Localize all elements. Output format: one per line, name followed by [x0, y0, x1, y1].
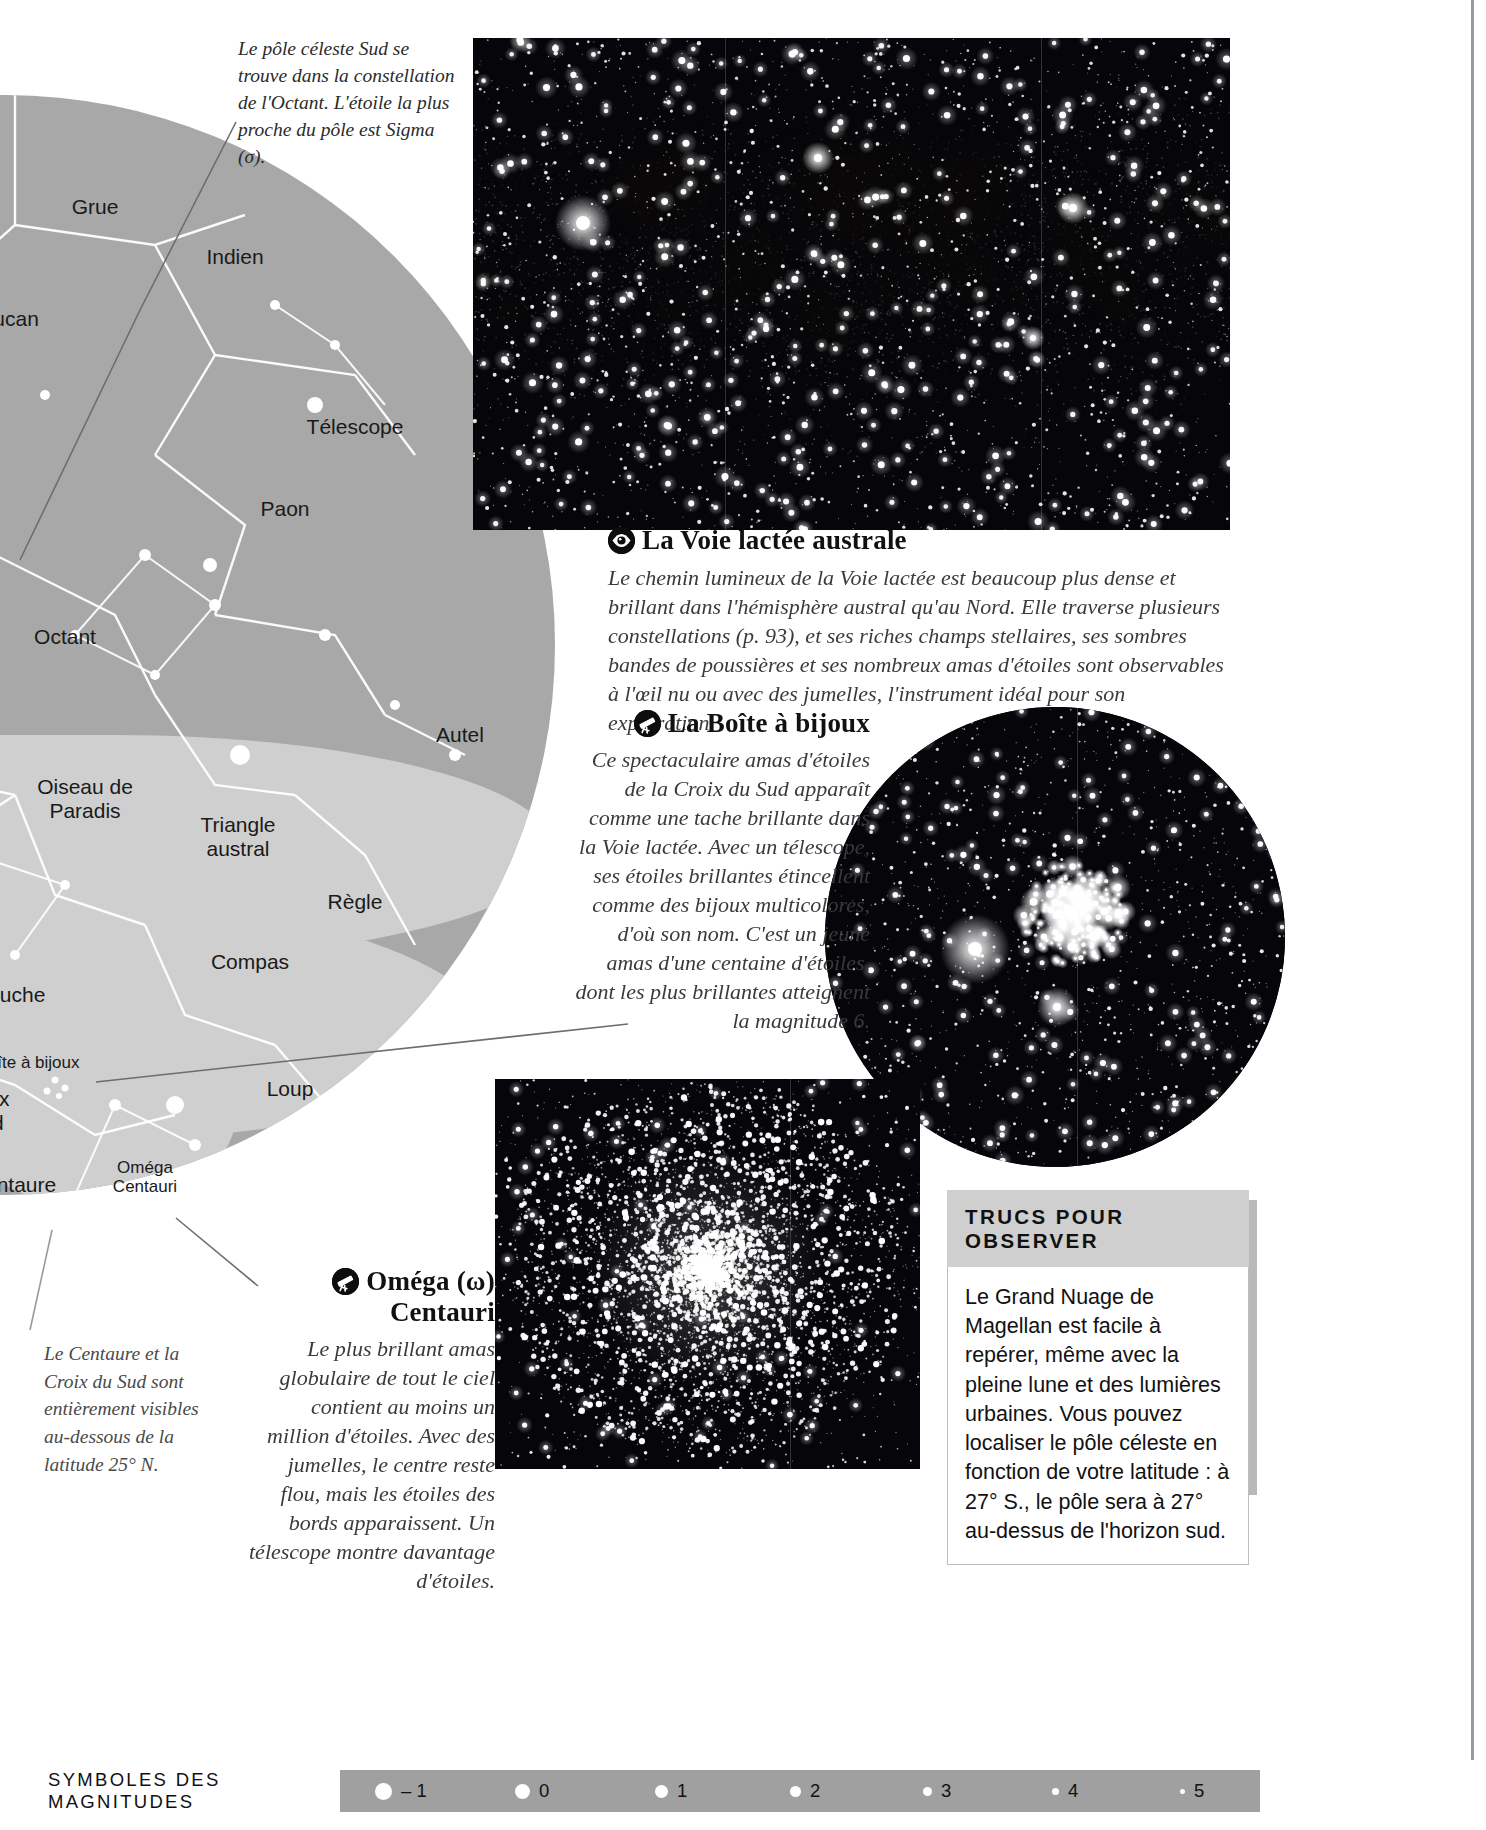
constellation-label: Triangle austral [200, 813, 275, 860]
constellation-label: Compas [211, 950, 289, 974]
constellation-label: Autel [436, 723, 484, 747]
constellation-label: Oméga Centauri [113, 1158, 177, 1196]
milky-way-section: La Voie lactée australe Le chemin lumine… [608, 525, 1233, 737]
constellation-label: Règle [328, 890, 383, 914]
constellation-label: Indien [206, 245, 263, 269]
magnitudes-legend-label: SYMBOLES DES MAGNITUDES [48, 1769, 340, 1813]
magnitude-legend-item: 5 [1180, 1770, 1204, 1812]
magnitude-value: 5 [1194, 1780, 1204, 1802]
constellation-label: Croix Sud [0, 1087, 10, 1134]
constellation-label: Loup [267, 1077, 314, 1101]
jewel-box-title: La Boîte à bijoux [668, 708, 870, 738]
tips-box-heading: TRUCS POUR OBSERVER [965, 1205, 1125, 1252]
magnitude-legend-item: – 1 [375, 1770, 427, 1812]
omega-centauri-photo[interactable] [495, 1079, 920, 1469]
omega-centauri-section: Oméga (ω) Centauri Le plus brillant amas… [245, 1266, 495, 1595]
magnitude-value: – 1 [401, 1780, 427, 1802]
constellation-label: Paon [260, 497, 309, 521]
magnitude-legend-item: 0 [515, 1770, 549, 1812]
tips-box-body: Le Grand Nuage de Magellan est facile à … [947, 1267, 1249, 1565]
jewel-box-title-row: La Boîte à bijoux [570, 708, 870, 739]
magnitude-value: 3 [941, 1780, 951, 1802]
constellation-label: Boîte à bijoux [0, 1053, 80, 1072]
milky-way-photo[interactable] [473, 38, 1230, 530]
constellation-label: Centaure [0, 1173, 56, 1197]
magnitude-value: 0 [539, 1780, 549, 1802]
page-edge-rule [1471, 0, 1474, 1760]
constellation-label: Toucan [0, 307, 39, 331]
tips-box-header: TRUCS POUR OBSERVER [947, 1190, 1249, 1267]
omega-centauri-title: Oméga (ω) Centauri [366, 1266, 495, 1327]
magnitude-value: 2 [810, 1780, 820, 1802]
magnitude-dot [515, 1784, 530, 1799]
magnitude-legend-item: 3 [923, 1770, 951, 1812]
magnitude-dot [655, 1785, 668, 1798]
magnitudes-legend-label-box: SYMBOLES DES MAGNITUDES [30, 1770, 340, 1812]
jewel-box-body: Ce spectaculaire amas d'étoiles de la Cr… [570, 745, 870, 1035]
constellation-label: Mouche [0, 983, 45, 1007]
telescope-icon [332, 1268, 359, 1295]
magnitude-legend-item: 1 [655, 1770, 687, 1812]
telescope-icon [634, 710, 661, 737]
jewel-box-cluster-marker [44, 1077, 69, 1100]
magnitude-dot [1052, 1788, 1059, 1795]
magnitude-value: 1 [677, 1780, 687, 1802]
jewel-box-section: La Boîte à bijoux Ce spectaculaire amas … [570, 708, 870, 1035]
milky-way-title-row: La Voie lactée australe [608, 525, 1233, 556]
magnitude-dot [923, 1787, 932, 1796]
constellation-label: Grue [72, 195, 119, 219]
milky-way-title: La Voie lactée australe [642, 525, 907, 555]
eye-icon [608, 527, 635, 554]
omega-centauri-body: Le plus brillant amas globulaire de tout… [245, 1334, 495, 1595]
magnitude-legend-item: 2 [790, 1770, 820, 1812]
south-pole-note: Le pôle céleste Sud se trouve dans la co… [238, 36, 463, 171]
visibility-latitude-note: Le Centaure et la Croix du Sud sont enti… [44, 1340, 219, 1478]
constellation-label: Octant [34, 625, 96, 649]
constellation-label: Télescope [307, 415, 404, 439]
magnitude-value: 4 [1068, 1780, 1078, 1802]
observing-tips-box: TRUCS POUR OBSERVER Le Grand Nuage de Ma… [947, 1190, 1249, 1565]
magnitude-dot [375, 1783, 392, 1800]
omega-centauri-title-row: Oméga (ω) Centauri [245, 1266, 495, 1328]
constellation-label: Oiseau de Paradis [37, 775, 133, 822]
magnitude-dot [1180, 1789, 1185, 1794]
magnitudes-legend: SYMBOLES DES MAGNITUDES – 1012345 [30, 1770, 1260, 1812]
magnitude-legend-item: 4 [1052, 1770, 1078, 1812]
page-root: GrueIndienToucanTélescopePaonOctantAutel… [0, 0, 1486, 1830]
magnitude-dot [790, 1786, 801, 1797]
